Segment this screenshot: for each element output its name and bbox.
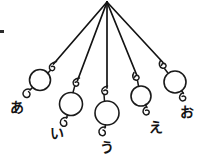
label-pendulum-u: う: [100, 140, 114, 154]
diagram-canvas: [0, 0, 199, 157]
label-pendulum-i: い: [50, 126, 64, 140]
pendulum-diagram: あ い う え お: [0, 0, 199, 157]
connector-u-top: [104, 95, 105, 102]
label-pendulum-o: お: [180, 105, 194, 119]
label-pendulum-a: あ: [10, 100, 24, 114]
connector-e-top: [138, 81, 139, 87]
label-pendulum-e: え: [149, 120, 163, 134]
edge-artifact-mark: [0, 30, 4, 33]
